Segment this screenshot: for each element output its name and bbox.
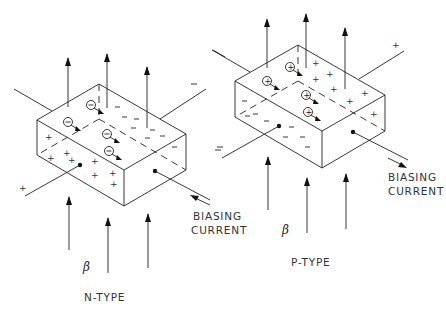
n-type-block: + + + + + + + + +	[14, 50, 247, 303]
hall-axis-line	[160, 89, 206, 119]
svg-text:+: +	[91, 170, 99, 180]
n-carriers	[64, 101, 123, 161]
n-biasing-label-line1: BIASING	[193, 210, 242, 222]
n-type-label: N-TYPE	[84, 291, 125, 303]
svg-text:+: +	[326, 69, 334, 79]
arrowhead-icon	[105, 217, 111, 226]
arrowhead-icon	[264, 18, 270, 27]
p-biasing-current-path	[222, 124, 408, 168]
arrowhead-icon	[104, 53, 110, 62]
hall-axis-line	[213, 50, 225, 57]
p-carriers: + + + +	[263, 63, 322, 122]
p-bottom-charges	[215, 101, 310, 150]
svg-text:+: +	[47, 153, 55, 163]
svg-text:+: +	[303, 91, 310, 100]
svg-text:+: +	[346, 96, 354, 106]
arrowhead-icon	[190, 195, 199, 201]
p-field-symbol: β	[281, 223, 289, 237]
hall-axis-line	[359, 51, 404, 79]
n-bottom-charges: + + + + + + + + +	[19, 132, 118, 193]
p-box-hidden-edge	[298, 81, 385, 131]
svg-text:+: +	[68, 155, 76, 165]
p-biasing-label-line2: CURRENT	[388, 185, 444, 197]
arrowhead-icon	[303, 13, 309, 22]
svg-text:+: +	[312, 58, 320, 68]
arrowhead-icon	[398, 162, 407, 168]
svg-text:+: +	[392, 40, 400, 50]
arrowhead-icon	[145, 213, 151, 222]
svg-text:+: +	[305, 108, 312, 117]
svg-text:+: +	[110, 179, 118, 189]
svg-text:+: +	[287, 63, 294, 72]
arrowhead-icon	[342, 27, 348, 36]
arrowhead-icon	[65, 57, 71, 66]
svg-text:+: +	[361, 88, 369, 98]
svg-text:+: +	[330, 84, 338, 94]
arrowhead-icon	[304, 177, 310, 186]
n-biasing-label-line2: CURRENT	[191, 224, 247, 236]
svg-text:+: +	[370, 109, 378, 119]
p-biasing-label-line1: BIASING	[388, 171, 437, 183]
svg-text:+: +	[264, 77, 271, 86]
svg-text:+: +	[45, 132, 53, 142]
arrowhead-icon	[66, 196, 72, 205]
arrowhead-icon	[265, 156, 271, 165]
arrowhead-icon	[343, 173, 349, 182]
svg-text:+: +	[109, 168, 117, 178]
hall-axis-line	[14, 89, 52, 111]
hall-axis-line	[212, 50, 250, 72]
n-field-symbol: β	[82, 260, 90, 274]
p-type-label: P-TYPE	[291, 256, 331, 268]
hall-effect-diagram: + + + + + + + + +	[0, 0, 446, 313]
svg-text:+: +	[91, 156, 99, 166]
p-top-charges: + + + + + + + +	[312, 40, 400, 119]
svg-text:+: +	[312, 74, 320, 84]
arrowhead-icon	[144, 66, 150, 75]
svg-text:+: +	[19, 183, 27, 193]
